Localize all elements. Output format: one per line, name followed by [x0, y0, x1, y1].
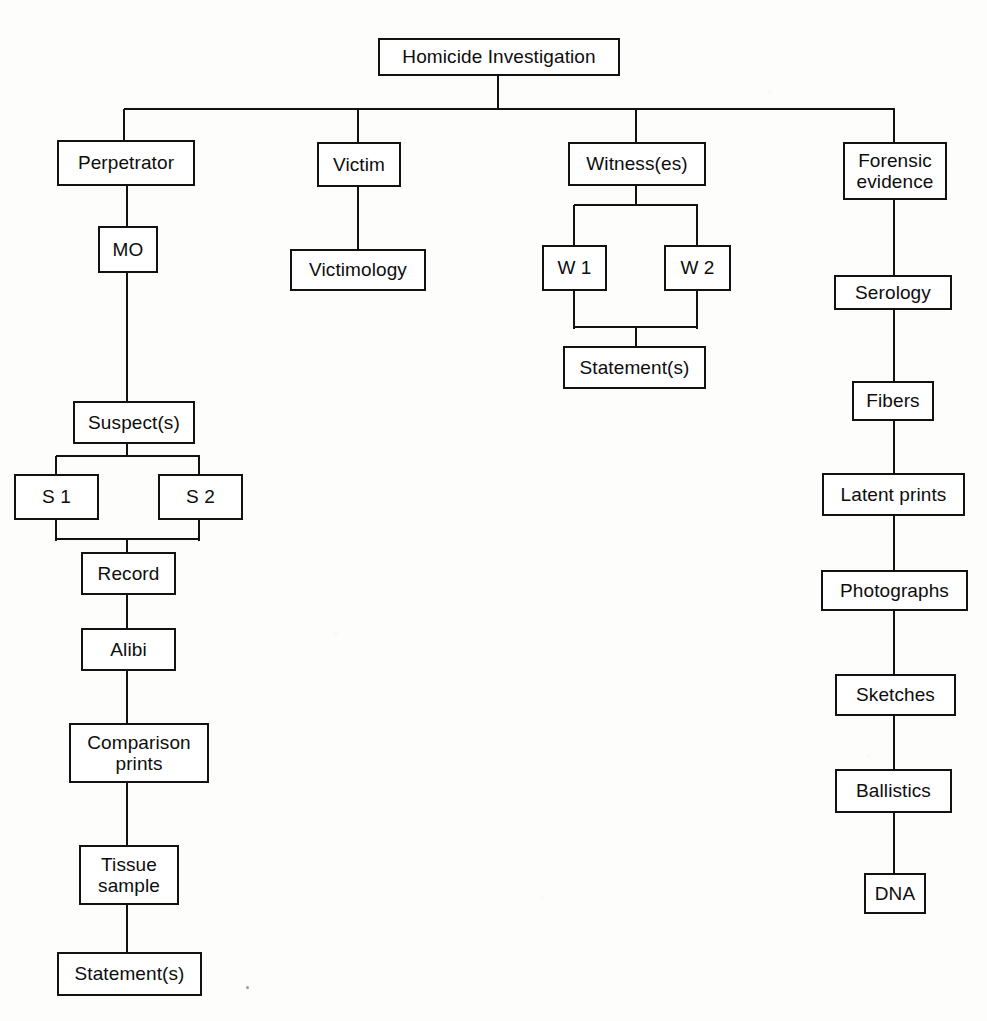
node-comparison-prints: Comparison prints [69, 723, 209, 783]
node-ballistics: Ballistics [835, 769, 952, 813]
witnesses-to-split [635, 186, 637, 206]
merge-to-statement [635, 327, 637, 347]
bar-to-witnesses [635, 109, 637, 144]
split-to-w2 [696, 205, 698, 246]
node-forensic-evidence: Forensic evidence [843, 142, 947, 200]
witness-split-bar [574, 204, 698, 206]
node-dna: DNA [864, 873, 926, 914]
bar-to-victim [357, 109, 359, 144]
node-tissue-sample: Tissue sample [79, 845, 179, 905]
alibi-to-comparison-prints [126, 670, 128, 724]
victim-to-victimology [357, 186, 359, 250]
mo-to-suspects [126, 272, 128, 402]
node-alibi: Alibi [81, 628, 176, 671]
photographs-to-sketches [893, 610, 895, 675]
forensic-to-serology [893, 200, 895, 276]
node-photographs: Photographs [821, 570, 968, 611]
node-perpetrator: Perpetrator [57, 140, 195, 186]
node-mo: MO [98, 226, 158, 273]
scan-speck [246, 986, 249, 989]
node-statement-left: Statement(s) [57, 952, 202, 996]
node-w2: W 2 [664, 245, 731, 291]
comparison-to-tissue [126, 782, 128, 846]
root-to-distribution-bar [497, 76, 499, 109]
split-to-s2 [198, 456, 200, 475]
bar-to-forensic-evidence [893, 109, 895, 144]
homicide-investigation-tree-diagram: Homicide InvestigationPerpetratorMOSuspe… [0, 0, 987, 1021]
serology-to-fibers [893, 309, 895, 382]
node-root: Homicide Investigation [378, 38, 620, 76]
w2-to-merge [696, 290, 698, 329]
sketches-to-ballistics [893, 715, 895, 770]
node-s1: S 1 [14, 474, 99, 520]
node-fibers: Fibers [852, 381, 934, 421]
record-to-alibi [126, 594, 128, 629]
node-victimology: Victimology [290, 249, 426, 291]
node-victim: Victim [317, 142, 401, 187]
split-to-w1 [573, 205, 575, 246]
node-s2: S 2 [158, 474, 243, 520]
node-serology: Serology [834, 275, 952, 310]
suspect-split-bar [56, 455, 200, 457]
merge-to-record [126, 539, 128, 553]
split-to-s1 [55, 456, 57, 475]
node-suspects: Suspect(s) [73, 401, 195, 444]
bar-to-perpetrator [123, 109, 125, 142]
suspect-merge-bar [56, 538, 200, 540]
w1-to-merge [573, 290, 575, 329]
latent-to-photographs [893, 515, 895, 571]
node-witnesses: Witness(es) [568, 142, 706, 186]
node-sketches: Sketches [835, 674, 956, 716]
node-record: Record [81, 552, 176, 595]
level1-distribution-bar [124, 108, 895, 110]
node-latent-prints: Latent prints [822, 473, 965, 516]
ballistics-to-dna [893, 812, 895, 874]
fibers-to-latent-prints [893, 420, 895, 474]
perpetrator-to-mo [126, 186, 128, 227]
node-w1: W 1 [542, 245, 607, 291]
node-statement-witness: Statement(s) [563, 346, 706, 389]
tissue-to-statement [126, 904, 128, 953]
